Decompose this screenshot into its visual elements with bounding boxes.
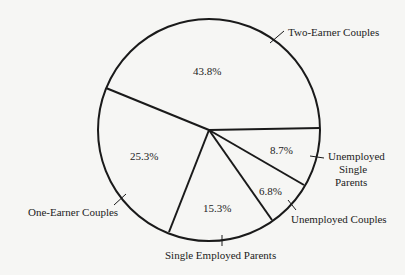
label-unemployed-couples: Unemployed Couples <box>291 213 387 225</box>
label-single-employed: Single Employed Parents <box>165 249 276 261</box>
pie-chart: Two-Earner Couples One-Earner Couples Si… <box>0 0 405 275</box>
pct-unemployed-couples: 6.8% <box>259 185 282 197</box>
slice-divider <box>169 130 209 232</box>
label-unemployed-single-3: Parents <box>335 176 367 188</box>
slice-divider <box>209 130 304 185</box>
pct-one-earner: 25.3% <box>130 150 158 162</box>
label-two-earner: Two-Earner Couples <box>288 26 379 38</box>
label-unemployed-single-1: Unemployed <box>328 150 385 162</box>
slice-divider <box>209 128 320 130</box>
pct-single-employed: 15.3% <box>203 202 231 214</box>
label-unemployed-single-2: Single <box>339 163 367 175</box>
pct-unemployed-single: 8.7% <box>270 144 293 156</box>
slice-divider <box>106 88 209 130</box>
pct-two-earner: 43.8% <box>193 65 221 77</box>
label-one-earner: One-Earner Couples <box>28 206 118 218</box>
